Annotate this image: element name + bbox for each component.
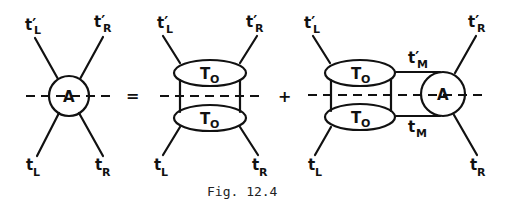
svg-text:L: L — [161, 166, 168, 179]
label-t-prime-R: t′ R — [246, 13, 264, 35]
leg-top-left — [35, 38, 58, 79]
leg-bottom-right — [79, 113, 103, 156]
plus-sign: + — [278, 87, 291, 106]
label-t-L: t L — [308, 156, 322, 179]
svg-text:R: R — [477, 166, 486, 179]
svg-text:R: R — [255, 22, 264, 35]
equals-sign: = — [126, 86, 139, 105]
leg-top-right — [455, 36, 476, 73]
diagram-3-T0-T0-A: A T O T O t′ M t M t′ L t′ R t L — [304, 13, 486, 179]
leg-bottom-left — [315, 127, 331, 155]
label-t-prime-L: t′ L — [25, 16, 41, 37]
leg-top-right — [240, 36, 257, 63]
label-t-L: t L — [154, 156, 168, 179]
label-t-L: t L — [26, 156, 40, 179]
svg-text:O: O — [361, 73, 370, 86]
blob-A-label: A — [63, 88, 75, 106]
label-t-R: t R — [95, 156, 111, 179]
label-t-prime-L: t′ L — [304, 14, 320, 36]
svg-text:M: M — [417, 58, 428, 71]
label-t-R: t R — [252, 156, 268, 179]
leg-bottom-left — [163, 127, 180, 155]
upper-T0-label: T O — [200, 65, 219, 86]
svg-text:L: L — [313, 23, 320, 36]
leg-top-left — [313, 36, 330, 63]
lower-T0-label: T O — [351, 109, 370, 130]
svg-text:R: R — [103, 22, 112, 35]
blob-A-label: A — [437, 86, 449, 104]
svg-text:M: M — [416, 127, 427, 140]
svg-text:L: L — [315, 166, 322, 179]
svg-text:O: O — [210, 118, 219, 131]
leg-bottom-right — [240, 127, 258, 155]
label-t-M: t M — [408, 118, 427, 140]
diagram-1-amplitude-A: A t′ L t′ R t L t R — [25, 13, 112, 179]
figure-caption: Fig. 12.4 — [207, 184, 278, 199]
label-t-R: t R — [470, 156, 486, 179]
svg-text:R: R — [477, 22, 486, 35]
leg-bottom-right — [454, 115, 477, 155]
svg-text:R: R — [259, 166, 268, 179]
label-t-prime-R: t′ R — [468, 13, 486, 35]
diagram-2-T0-T0: T O T O t′ L t′ R t L t R — [154, 13, 268, 179]
leg-top-right — [80, 37, 103, 79]
svg-text:L: L — [166, 23, 173, 36]
label-t-prime-L: t′ L — [157, 14, 173, 36]
label-t-prime-R: t′ R — [94, 13, 112, 35]
leg-top-left — [163, 36, 180, 63]
svg-text:t: t — [408, 118, 415, 136]
label-t-prime-M: t′ M — [408, 49, 428, 71]
leg-bottom-left — [37, 113, 59, 156]
svg-text:R: R — [102, 166, 111, 179]
svg-text:L: L — [33, 166, 40, 179]
svg-text:O: O — [361, 117, 370, 130]
svg-text:L: L — [34, 24, 41, 37]
svg-text:O: O — [210, 73, 219, 86]
lower-T0-label: T O — [200, 110, 219, 131]
figure-12-4: A t′ L t′ R t L t R = T O — [0, 0, 507, 211]
upper-T0-label: T O — [351, 65, 370, 86]
